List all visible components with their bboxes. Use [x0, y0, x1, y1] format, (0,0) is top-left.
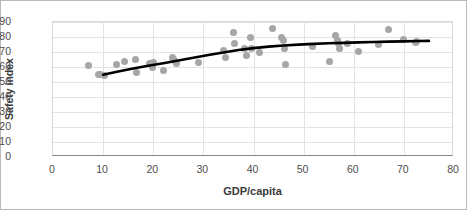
y-tick-label: 20 — [0, 121, 11, 131]
x-tick-label: 40 — [233, 164, 273, 174]
y-tick-label: 40 — [0, 91, 11, 101]
x-tick-label: 70 — [383, 164, 423, 174]
trendline — [53, 22, 454, 157]
y-tick-label: 10 — [0, 136, 11, 146]
y-tick-label: 50 — [0, 76, 11, 86]
x-tick-label: 30 — [182, 164, 222, 174]
x-axis-title: GDP/capita — [52, 185, 453, 197]
plot-area — [52, 21, 453, 156]
x-tick-label: 20 — [132, 164, 172, 174]
x-tick-label: 80 — [433, 164, 469, 174]
y-tick-label: 80 — [0, 31, 11, 41]
x-tick-label: 10 — [82, 164, 122, 174]
x-tick-label: 0 — [32, 164, 72, 174]
y-tick-label: 70 — [0, 46, 11, 56]
x-tick-label: 60 — [333, 164, 373, 174]
chart-container: Safety index 0102030405060708090 0102030… — [0, 0, 467, 210]
y-tick-label: 90 — [0, 16, 11, 26]
y-tick-label: 0 — [0, 151, 11, 161]
y-tick-label: 30 — [0, 106, 11, 116]
y-tick-label: 60 — [0, 61, 11, 71]
x-tick-label: 50 — [283, 164, 323, 174]
